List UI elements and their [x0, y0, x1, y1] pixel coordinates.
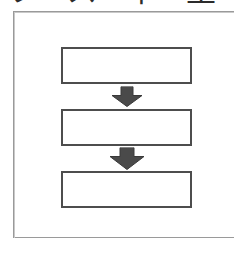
process-box-2-label [63, 111, 190, 144]
process-box-1[interactable] [61, 47, 192, 84]
scanned-diagram-page: フ ス 下 里 [0, 0, 234, 257]
arrow-down-icon [109, 147, 145, 170]
connector-slot-1 [61, 84, 192, 109]
process-box-3-label [63, 173, 190, 206]
connector-slot-2 [61, 146, 192, 171]
diagram-frame [13, 11, 234, 238]
flowchart-container [61, 47, 192, 208]
process-box-2[interactable] [61, 109, 192, 146]
arrow-down-icon [111, 86, 143, 107]
page-title: フ ス 下 里 [8, 0, 227, 8]
process-box-3[interactable] [61, 171, 192, 208]
process-box-1-label [63, 49, 190, 82]
